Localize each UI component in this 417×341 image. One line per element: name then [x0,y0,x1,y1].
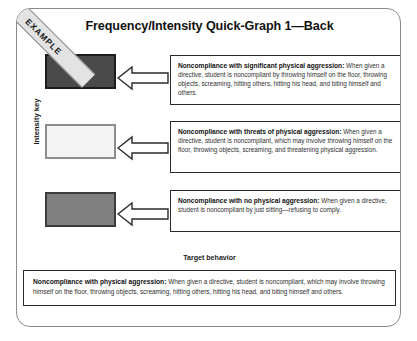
target-behavior-term: Noncompliance with physical aggression: [33,278,166,285]
page-title: Frequency/Intensity Quick-Graph 1—Back [17,19,401,33]
definition-text-low: Noncompliance with no physical aggressio… [178,196,393,214]
target-behavior-box: Noncompliance with physical aggression: … [23,270,396,306]
target-behavior-label: Target behavior [17,254,401,262]
definition-box-high: Noncompliance with significant physical … [170,55,401,105]
medium-intensity-swatch [45,124,116,159]
page-root: Frequency/Intensity Quick-Graph 1—Back E… [0,0,417,341]
worksheet-card: Frequency/Intensity Quick-Graph 1—Back E… [16,8,401,327]
low-intensity-swatch [45,192,116,227]
arrow-to-medium-intensity [117,135,169,161]
definition-term-high: Noncompliance with significant physical … [178,62,344,69]
arrow-to-low-intensity [117,201,169,227]
intensity-key-axis-label: Intensity key [32,87,41,157]
definition-term-medium: Noncompliance with threats of physical a… [178,128,341,135]
target-behavior-text: Noncompliance with physical aggression: … [33,277,386,296]
definition-box-low: Noncompliance with no physical aggressio… [170,190,401,232]
definition-box-medium: Noncompliance with threats of physical a… [170,121,401,173]
definition-text-medium: Noncompliance with threats of physical a… [178,127,393,154]
definition-term-low: Noncompliance with no physical aggressio… [178,197,319,204]
definition-text-high: Noncompliance with significant physical … [178,61,393,97]
arrow-to-high-intensity [117,65,169,91]
